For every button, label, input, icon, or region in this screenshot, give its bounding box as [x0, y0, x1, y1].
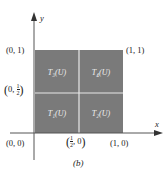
- point-label-top-right: (1, 1): [126, 46, 144, 55]
- cell-label-t4: T₄(U): [92, 68, 110, 77]
- x-axis-label: x: [155, 120, 159, 129]
- mid-left-prefix: 0,: [8, 84, 14, 94]
- figure-caption: (b): [73, 159, 84, 168]
- point-label-origin: (0, 0): [6, 139, 24, 148]
- point-label-mid-bottom: (12, 0): [66, 135, 86, 148]
- point-label-mid-left: (0, 12): [4, 83, 24, 96]
- cell-label-t1: T₁(U): [48, 109, 66, 118]
- mid-bottom-suffix: , 0: [73, 136, 82, 146]
- x-axis-arrow-icon: [154, 130, 163, 136]
- y-axis-label: y: [40, 14, 44, 23]
- diagram: y x T₃(U) T₄(U) T₁(U) T₂(U) (0, 1) (1, 1…: [0, 0, 166, 179]
- cell-label-t3: T₃(U): [48, 68, 66, 77]
- point-label-top-left: (0, 1): [6, 46, 24, 55]
- cell-label-t2: T₂(U): [92, 109, 110, 118]
- axes-and-square: [0, 0, 166, 179]
- y-axis-arrow-icon: [31, 12, 37, 21]
- point-label-bottom-right: (1, 0): [110, 139, 128, 148]
